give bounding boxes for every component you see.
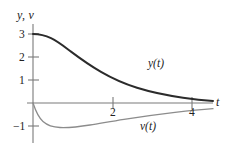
y-axis-tick-label-1: 1 bbox=[19, 75, 25, 87]
curve-label-v-of-t: v(t) bbox=[140, 121, 156, 133]
x-axis-tick-label-4: 4 bbox=[189, 107, 195, 119]
plot-canvas bbox=[0, 0, 232, 147]
horizontal-axis-label: t bbox=[216, 96, 219, 108]
curve-v-of-t bbox=[33, 103, 213, 128]
curve-label-y-of-t: y(t) bbox=[148, 58, 164, 70]
figure-damped-response-plot: y, v t 3 2 1 −1 2 4 y(t) v(t) bbox=[0, 0, 232, 147]
x-axis-tick-label-2: 2 bbox=[110, 107, 116, 119]
y-axis-tick-label-minus-1: −1 bbox=[13, 121, 25, 133]
y-axis-tick-label-3: 3 bbox=[19, 29, 25, 41]
y-axis-tick-label-2: 2 bbox=[19, 52, 25, 64]
vertical-axis-label: y, v bbox=[17, 9, 34, 21]
curve-y-of-t bbox=[33, 34, 213, 101]
